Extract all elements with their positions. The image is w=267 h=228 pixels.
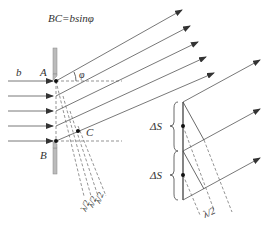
slit-width-label: b: [16, 66, 22, 78]
delta-s-lower-label: ΔS: [149, 169, 162, 181]
formula-label: BC=bsinφ: [48, 12, 94, 24]
incident-rays: [8, 81, 53, 141]
point-b-label: B: [40, 149, 47, 161]
half-wave-right-label: λ/2: [200, 205, 217, 221]
angle-arc: [74, 72, 76, 81]
half-wave-zone-diagram: [170, 60, 260, 215]
half-wave-lines: [56, 81, 106, 196]
point-a: [54, 79, 58, 83]
point-b: [54, 139, 58, 143]
angle-label: φ: [79, 69, 85, 80]
single-slit-diffraction-diagram: BC=bsinφ b A B φ C: [0, 0, 267, 228]
point-a-label: A: [39, 66, 47, 78]
delta-s-upper-label: ΔS: [149, 120, 162, 132]
point-c: [76, 129, 80, 133]
point-c-label: C: [86, 126, 94, 138]
